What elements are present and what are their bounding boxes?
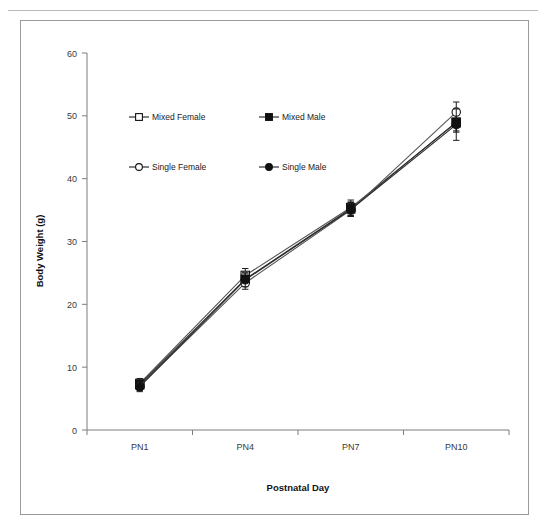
marker-filled-circle xyxy=(347,205,355,213)
marker-filled-circle xyxy=(266,164,273,171)
figure-border-box: 0102030405060 PN1PN4PN7PN10 Mixed Female… xyxy=(20,20,529,515)
legend-item-single-female: Single Female xyxy=(129,162,207,172)
legend-item-mixed-female: Mixed Female xyxy=(129,112,206,122)
x-tick-label: PN7 xyxy=(342,442,360,452)
y-tick-label: 60 xyxy=(67,49,77,59)
series-single-male xyxy=(136,109,461,392)
marker-filled-circle xyxy=(241,276,249,284)
chart-plot-area: 0102030405060 PN1PN4PN7PN10 Mixed Female… xyxy=(21,21,528,514)
x-axis-title: Postnatal Day xyxy=(267,482,331,493)
y-axis-ticks: 0102030405060 xyxy=(67,49,87,436)
series-single-female xyxy=(136,102,461,390)
x-tick-label: PN1 xyxy=(131,442,149,452)
legend-label: Single Female xyxy=(152,162,207,172)
y-tick-label: 10 xyxy=(67,363,77,373)
marker-filled-circle xyxy=(136,382,144,390)
x-axis-ticks: PN1PN4PN7PN10 xyxy=(87,430,509,452)
marker-filled-circle xyxy=(452,120,460,128)
y-tick-label: 50 xyxy=(67,111,77,121)
series-layer xyxy=(136,102,461,392)
legend-item-single-male: Single Male xyxy=(259,162,327,172)
marker-open-square xyxy=(136,114,143,121)
series-mixed-female xyxy=(136,113,461,388)
chart-legend: Mixed FemaleMixed MaleSingle FemaleSingl… xyxy=(129,112,327,172)
y-axis-title: Body Weight (g) xyxy=(34,215,45,288)
legend-label: Mixed Male xyxy=(282,112,326,122)
legend-label: Mixed Female xyxy=(152,112,206,122)
series-line xyxy=(140,112,457,386)
y-tick-label: 30 xyxy=(67,237,77,247)
page-top-rule xyxy=(8,10,538,11)
marker-filled-square xyxy=(266,114,273,121)
body-weight-line-chart: 0102030405060 PN1PN4PN7PN10 Mixed Female… xyxy=(21,21,528,514)
legend-item-mixed-male: Mixed Male xyxy=(259,112,326,122)
page-canvas: 0102030405060 PN1PN4PN7PN10 Mixed Female… xyxy=(0,0,546,529)
y-tick-label: 20 xyxy=(67,300,77,310)
series-mixed-male xyxy=(136,113,461,389)
y-tick-label: 40 xyxy=(67,174,77,184)
marker-open-circle xyxy=(136,164,143,171)
x-tick-label: PN4 xyxy=(236,442,254,452)
x-tick-label: PN10 xyxy=(445,442,468,452)
legend-label: Single Male xyxy=(282,162,327,172)
y-tick-label: 0 xyxy=(72,426,77,436)
